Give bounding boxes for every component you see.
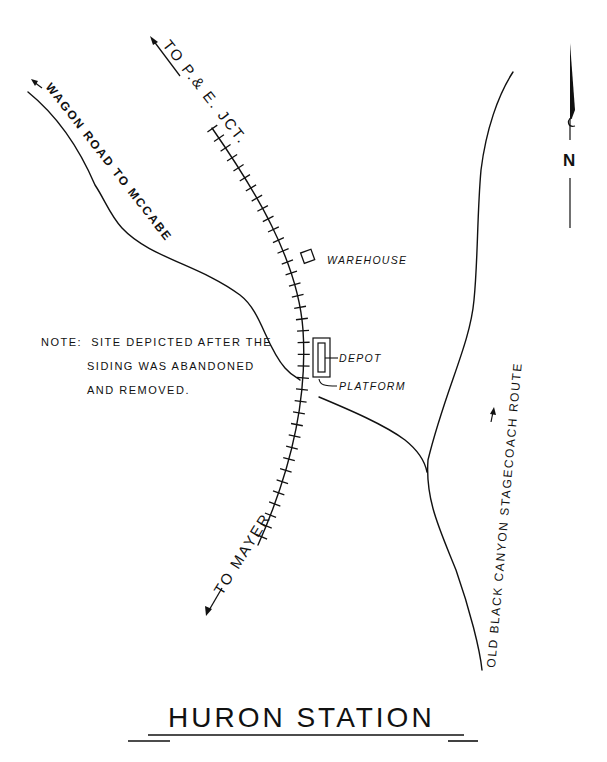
warehouse-icon [301,249,315,263]
stagecoach-route-label: OLD BLACK CANYON STAGECOACH ROUTE [484,362,525,669]
wagon-road-label: WAGON ROAD TO MCCABE [43,80,175,244]
note-line-3: AND REMOVED. [87,384,190,396]
note-line-1: NOTE: SITE DEPICTED AFTER THE [41,336,272,348]
huron-station-map: TO P.& E. JCT. TO MAYER WAGON ROAD TO MC… [0,0,607,762]
rail-label-north: TO P.& E. JCT. [160,36,252,147]
depot-label: DEPOT [339,352,382,364]
depot-access-road [319,397,427,472]
platform-label: PLATFORM [339,380,406,392]
north-arrow-icon [570,43,575,118]
note-line-2: SIDING WAS ABANDONED [87,360,255,372]
arrowhead-icon [150,36,158,45]
depot-building [318,343,325,372]
map-title: HURON STATION [168,702,435,733]
north-arrow [568,43,575,228]
arrowhead-icon [490,407,496,415]
north-label: N [563,151,575,170]
warehouse-label: WAREHOUSE [327,254,407,266]
rail-label-south: TO MAYER [210,510,274,598]
